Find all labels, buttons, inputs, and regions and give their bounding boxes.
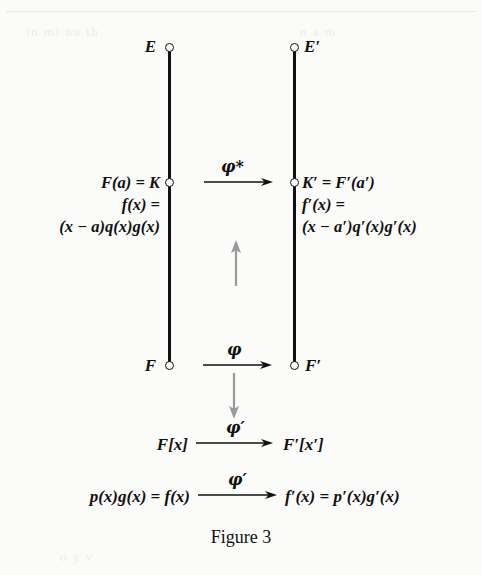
arrow-gray-down	[224, 373, 244, 419]
node-label-K-prime-line3: (x − a′)q′(x)g′(x)	[302, 216, 482, 238]
scan-line-artifact	[6, 11, 476, 12]
node-dot-F-prime	[290, 361, 299, 370]
node-label-K-line3: (x − a)q(x)g(x)	[0, 216, 160, 238]
arrow-phi-star	[204, 174, 274, 190]
tower-line-left-upper	[168, 47, 170, 182]
row-label-poly-ring-right: F′[x′]	[283, 434, 324, 456]
node-label-K-prime-line2: f′(x) =	[302, 194, 482, 216]
node-dot-E-prime	[290, 43, 299, 52]
row-label-poly-element-left: p(x)g(x) = f(x)	[20, 486, 190, 508]
node-dot-K-prime	[290, 178, 299, 187]
node-label-block-K-prime: K′ = F′(a′) f′(x) = (x − a′)q′(x)g′(x)	[302, 172, 482, 238]
arrow-gray-up	[226, 240, 246, 286]
node-label-F-prime: F′	[305, 355, 321, 377]
node-label-F: F	[102, 355, 156, 377]
showthrough-text-1: in mi nu th	[26, 24, 99, 40]
arrow-phi-prime-element	[198, 487, 278, 503]
node-dot-K	[165, 178, 174, 187]
node-label-E: E	[98, 36, 156, 58]
tower-line-right-upper	[293, 47, 295, 182]
node-dot-E	[165, 43, 174, 52]
arrow-phi	[203, 357, 273, 373]
figure-caption: Figure 3	[0, 527, 482, 548]
node-dot-F	[165, 361, 174, 370]
tower-line-left-lower	[168, 182, 170, 365]
tower-line-right-lower	[293, 182, 295, 365]
figure-diagram: in mi nu th n a m o y v E E′ F(a) = K f(…	[0, 0, 482, 575]
row-label-poly-ring-left: F[x]	[108, 434, 188, 456]
node-label-K-line1: F(a) = K	[0, 172, 160, 194]
node-label-K-line2: f(x) =	[0, 194, 160, 216]
arrow-phi-prime-ring	[196, 435, 274, 451]
node-label-E-prime: E′	[304, 36, 320, 58]
showthrough-text-3: o y v	[60, 549, 94, 565]
node-label-block-K: F(a) = K f(x) = (x − a)q(x)g(x)	[0, 172, 160, 238]
node-label-K-prime-line1: K′ = F′(a′)	[302, 172, 482, 194]
row-label-poly-element-right: f′(x) = p′(x)g′(x)	[285, 486, 400, 508]
